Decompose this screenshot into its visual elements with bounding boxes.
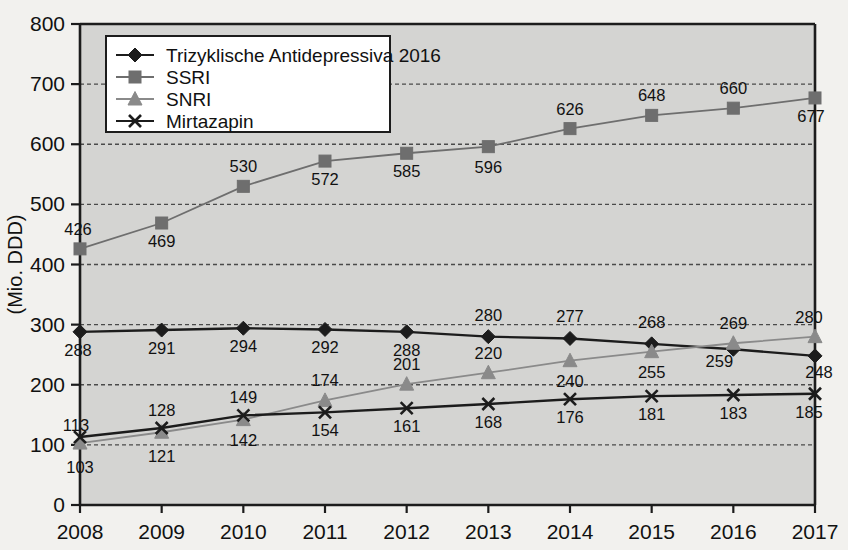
square-marker xyxy=(482,141,494,153)
legend: Trizyklische Antidepressiva 2016SSRISNRI… xyxy=(106,36,441,132)
data-label: 248 xyxy=(805,363,833,381)
legend-label: Mirtazapin xyxy=(166,111,254,132)
y-tick-label: 800 xyxy=(30,12,65,35)
y-tick-label: 700 xyxy=(30,72,65,95)
data-label: 660 xyxy=(720,79,748,97)
data-label: 149 xyxy=(230,388,258,406)
data-label: 280 xyxy=(475,306,503,324)
y-axis-title: (Mio. DDD) xyxy=(4,215,26,315)
data-label: 596 xyxy=(475,158,503,176)
data-label: 648 xyxy=(638,86,666,104)
x-tick-label: 2012 xyxy=(383,520,430,543)
data-label: 530 xyxy=(230,157,258,175)
y-tick-labels: 0100200300400500600700800 xyxy=(30,12,80,516)
legend-label: Trizyklische Antidepressiva 2016 xyxy=(166,45,441,66)
line-chart: 0100200300400500600700800(Mio. DDD)20082… xyxy=(0,0,848,550)
data-label: 142 xyxy=(230,431,258,449)
data-label: 185 xyxy=(795,403,823,421)
y-tick-label: 100 xyxy=(30,433,65,456)
data-label: 128 xyxy=(148,401,176,419)
square-marker xyxy=(74,243,86,255)
x-tick-label: 2011 xyxy=(302,520,347,543)
data-label: 626 xyxy=(556,100,584,118)
data-label: 183 xyxy=(720,404,748,422)
square-marker xyxy=(564,123,576,135)
data-label: 585 xyxy=(393,162,421,180)
square-marker xyxy=(809,92,821,104)
data-label: 121 xyxy=(148,447,176,465)
x-tick-labels: 2008200920102011201220132014201520162017 xyxy=(57,505,839,543)
data-label: 181 xyxy=(638,405,666,423)
square-marker xyxy=(237,180,249,192)
x-tick-label: 2009 xyxy=(138,520,185,543)
square-marker xyxy=(401,147,413,159)
data-label: 288 xyxy=(64,341,92,359)
x-tick-label: 2013 xyxy=(465,520,512,543)
data-label: 220 xyxy=(475,344,503,362)
data-label: 291 xyxy=(148,339,176,357)
data-label: 268 xyxy=(638,313,666,331)
data-label: 277 xyxy=(556,307,584,325)
data-label: 154 xyxy=(311,421,339,439)
x-tick-label: 2014 xyxy=(547,520,594,543)
data-label: 677 xyxy=(797,107,825,125)
square-marker xyxy=(727,102,739,114)
data-label: 168 xyxy=(475,413,503,431)
x-tick-label: 2008 xyxy=(57,520,104,543)
data-label: 174 xyxy=(311,371,339,389)
data-label: 113 xyxy=(63,416,89,434)
square-marker xyxy=(319,155,331,167)
data-label: 280 xyxy=(795,308,823,326)
x-tick-label: 2015 xyxy=(628,520,675,543)
data-label: 294 xyxy=(230,337,258,355)
x-tick-label: 2016 xyxy=(710,520,757,543)
y-tick-label: 400 xyxy=(30,253,65,276)
x-tick-label: 2010 xyxy=(220,520,267,543)
square-marker xyxy=(646,109,658,121)
data-label: 176 xyxy=(556,408,584,426)
x-tick-label: 2017 xyxy=(792,520,839,543)
data-label: 426 xyxy=(64,220,92,238)
y-tick-label: 200 xyxy=(30,373,65,396)
data-label: 572 xyxy=(311,170,339,188)
data-label: 201 xyxy=(393,355,421,373)
y-tick-label: 600 xyxy=(30,132,65,155)
y-tick-label: 500 xyxy=(30,192,65,215)
y-tick-label: 0 xyxy=(53,493,65,516)
data-label: 269 xyxy=(720,314,748,332)
y-tick-label: 300 xyxy=(30,313,65,336)
square-marker xyxy=(129,71,141,83)
legend-label: SSRI xyxy=(166,67,210,88)
data-label: 103 xyxy=(66,458,94,476)
data-label: 255 xyxy=(638,363,666,381)
data-label: 469 xyxy=(148,232,176,250)
square-marker xyxy=(156,217,168,229)
data-label: 240 xyxy=(556,372,584,390)
chart-container: 0100200300400500600700800(Mio. DDD)20082… xyxy=(0,0,848,550)
data-label: 292 xyxy=(311,338,339,356)
legend-label: SNRI xyxy=(166,89,211,110)
data-label: 161 xyxy=(393,417,421,435)
data-label: 259 xyxy=(706,352,734,370)
